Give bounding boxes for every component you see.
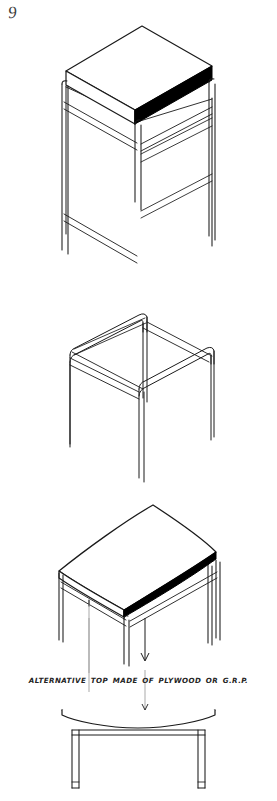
figure-isometric-frame-only bbox=[0, 292, 277, 492]
figure-4-drawing bbox=[0, 700, 277, 800]
figure-front-elevation-curved-top bbox=[0, 700, 277, 800]
figure-isometric-table-flat-top bbox=[0, 14, 277, 294]
leader-line-and-arrow bbox=[0, 560, 277, 720]
figure-1-drawing bbox=[0, 14, 277, 294]
figure-2-drawing bbox=[0, 292, 277, 492]
caption-alternative-top: ALTERNATIVE TOP MADE OF PLYWOOD OR G.R.P… bbox=[0, 676, 277, 685]
drawing-page: 9 bbox=[0, 0, 277, 801]
